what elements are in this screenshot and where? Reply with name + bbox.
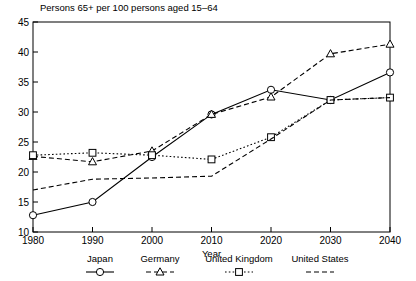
x-axis-tick-label: 2000 [141,235,164,246]
data-point-marker [89,149,96,156]
x-axis-tick-label: 2010 [200,235,223,246]
series-japan [29,69,393,219]
series-line [33,98,390,160]
data-point-marker [149,152,156,159]
legend-symbol-germany [146,268,174,275]
legend-label-japan: Japan [87,253,113,264]
data-point-marker [89,198,96,205]
legend-label-germany: Germany [140,253,179,264]
data-point-marker [208,156,215,163]
line-chart: Persons 65+ per 100 persons aged 15–6410… [0,0,416,281]
data-point-marker [267,93,275,100]
chart-title: Persons 65+ per 100 persons aged 15–64 [40,2,218,13]
legend-label-united-states: United States [291,253,348,264]
data-point-marker [29,212,36,219]
x-axis-tick-label: 2020 [260,235,283,246]
y-axis-tick-label: 15 [18,197,30,208]
plot-frame [33,22,390,232]
x-axis-tick-label: 1990 [81,235,104,246]
series-united-kingdom [30,94,394,163]
y-axis-tick-label: 45 [18,17,30,28]
y-axis-tick-label: 20 [18,167,30,178]
legend-label-united-kingdom: United Kingdom [205,253,273,264]
y-axis-tick-label: 35 [18,77,30,88]
x-axis-tick-label: 2030 [319,235,342,246]
legend-symbol-united-kingdom [225,269,253,276]
data-point-marker [30,152,37,159]
legend-marker [156,268,164,275]
x-axis-tick-label: 2040 [379,235,402,246]
legend-symbol-japan [86,268,114,275]
series-germany [29,40,394,165]
y-axis-tick-label: 25 [18,137,30,148]
series-line [33,44,390,162]
legend-marker [236,269,243,276]
data-point-marker [386,69,393,76]
data-point-marker [386,40,394,47]
y-axis-tick-label: 30 [18,107,30,118]
chart-container: Persons 65+ per 100 persons aged 15–6410… [0,0,416,281]
legend-marker [96,268,103,275]
y-axis-tick-label: 40 [18,47,30,58]
x-axis-tick-label: 1980 [22,235,45,246]
series-line [33,72,390,215]
